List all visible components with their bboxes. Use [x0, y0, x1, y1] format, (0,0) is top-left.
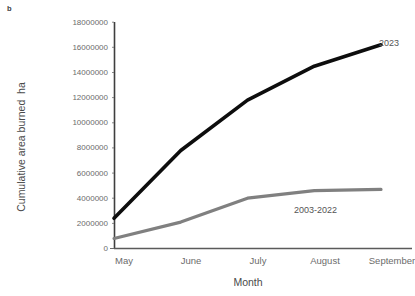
x-tick-label-may: May	[115, 255, 133, 266]
panel-label: b	[7, 4, 12, 13]
figure-panel-b: b Cumulative area burned ha Month 0 2000…	[0, 0, 415, 296]
x-tick-label-june: June	[181, 255, 202, 266]
y-tick-label: 0	[24, 244, 108, 253]
series-label-2023: 2023	[379, 38, 399, 48]
x-tick-label-september: September	[369, 255, 415, 266]
y-axis-tick-labels: 0 2000000 4000000 6000000 8000000 100000…	[24, 0, 108, 296]
y-tick-label: 2000000	[24, 219, 108, 228]
series-line-2003-2022	[114, 189, 381, 238]
y-axis-ticks	[110, 22, 114, 248]
y-tick-label: 14000000	[24, 68, 108, 77]
series-line-2023	[114, 45, 381, 219]
x-axis-title: Month	[114, 276, 382, 288]
x-tick-label-august: August	[310, 255, 340, 266]
y-tick-label: 8000000	[24, 143, 108, 152]
y-tick-label: 12000000	[24, 93, 108, 102]
y-tick-label: 10000000	[24, 118, 108, 127]
y-tick-label: 16000000	[24, 43, 108, 52]
y-tick-label: 6000000	[24, 169, 108, 178]
y-tick-label: 4000000	[24, 194, 108, 203]
x-axis-tick-labels: May June July August September	[80, 255, 415, 273]
x-tick-label-july: July	[250, 255, 267, 266]
y-tick-label: 18000000	[24, 18, 108, 27]
series-label-2003-2022: 2003-2022	[294, 205, 337, 215]
